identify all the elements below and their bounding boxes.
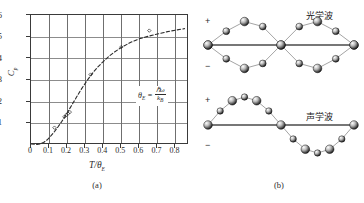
optical-atom-chain-a	[240, 17, 249, 26]
acoustic-atom	[228, 96, 237, 105]
acoustic-atom	[314, 150, 320, 156]
y-tick-label-1: 1	[0, 118, 2, 127]
panel-a-caption: (a)	[0, 180, 194, 190]
optical-atom-chain-a	[223, 28, 230, 35]
y-axis-label: Cp	[6, 68, 18, 77]
optical-atom-chain-a	[296, 60, 303, 67]
x-tick-label-0.7: 0.7	[147, 147, 166, 155]
acoustic-atom	[339, 136, 345, 142]
x-axis-label-denominator-subscript: E	[102, 166, 105, 172]
optical-atom-chain-b	[223, 55, 230, 62]
formula-fraction: ℏω kB	[155, 87, 166, 105]
acoustic-atom	[204, 121, 213, 130]
data-point	[148, 29, 151, 32]
panel-b-caption: (b)	[194, 180, 364, 190]
x-tick-label-0.3: 0.3	[75, 147, 94, 155]
y-axis-label-text: C	[6, 70, 16, 76]
y-axis-label-subscript: p	[12, 68, 18, 71]
acoustic-atom	[266, 108, 272, 114]
acoustic-atom	[252, 96, 261, 105]
optical-branch	[204, 17, 359, 72]
x-axis-label: T/θE	[0, 160, 194, 172]
acoustic-branch	[204, 94, 359, 156]
x-tick-label-0.8: 0.8	[165, 147, 184, 155]
optical-atom-chain-b	[240, 64, 249, 73]
optical-atom-chain-a	[259, 23, 266, 30]
x-tick-label-0: 0	[23, 147, 37, 155]
formula-equals: =	[147, 91, 152, 100]
x-tick-label-0.6: 0.6	[129, 147, 148, 155]
heat-capacity-curve-svg	[31, 15, 189, 145]
x-tick-label-0.4: 0.4	[93, 147, 112, 155]
acoustic-atom	[350, 121, 359, 130]
y-tick-label-3: 3	[0, 75, 2, 84]
formula-denominator: kB	[155, 95, 166, 104]
x-tick-label-0.5: 0.5	[111, 147, 130, 155]
panel-b-lattice-waves: 光学波 声学波 + − + −	[194, 0, 364, 203]
physics-figure: 6 5 4 3 2 1	[0, 0, 364, 203]
acoustic-atom	[301, 145, 310, 154]
y-tick-label-2: 2	[0, 97, 2, 106]
lattice-wave-diagram	[194, 0, 364, 180]
acoustic-atom	[217, 108, 223, 114]
x-tick-label-0.1: 0.1	[39, 147, 58, 155]
optical-atom-chain-a	[332, 55, 339, 62]
formula-lhs-subscript: E	[142, 95, 145, 101]
plot-area	[30, 14, 188, 144]
optical-atom-chain-a	[313, 64, 322, 73]
acoustic-atom	[277, 121, 286, 130]
einstein-temperature-formula: θE = ℏω kB	[136, 86, 168, 106]
acoustic-atom	[290, 136, 296, 142]
optical-atom-chain-b	[313, 17, 322, 26]
acoustic-atom	[325, 145, 334, 154]
y-tick-label-4: 4	[0, 54, 2, 63]
optical-atom-chain-b	[259, 60, 266, 67]
y-tick-label-5: 5	[0, 32, 2, 41]
optical-atom-chain-b	[332, 28, 339, 35]
panel-a-heat-capacity: 6 5 4 3 2 1	[0, 0, 194, 203]
data-point	[53, 126, 56, 129]
formula-denominator-subscript: B	[160, 98, 163, 104]
optical-atom-chain-b	[296, 23, 303, 30]
x-tick-label-0.2: 0.2	[57, 147, 76, 155]
acoustic-atom	[241, 94, 247, 100]
y-tick-label-6: 6	[0, 11, 2, 20]
optical-atom-chain-b	[204, 41, 213, 50]
optical-atom-chain-b	[350, 41, 359, 50]
experimental-data-markers	[53, 29, 151, 129]
optical-atom-chain-b	[277, 41, 286, 50]
